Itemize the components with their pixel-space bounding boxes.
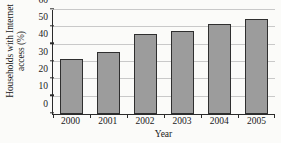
x-axis-tick-label: 2000 [52,117,89,127]
x-axis-tick-label: 2003 [164,117,201,127]
bar [245,19,268,114]
x-axis-tick-labels: 200020012002200320042005 [52,117,275,127]
bar-chart-figure: Households with Internet access (%) 0102… [0,0,281,143]
bar-series [53,10,275,114]
y-axis-tick-label: 0 [43,100,53,110]
bar-slot [53,10,90,114]
bar-slot [238,10,275,114]
x-axis-tick-label: 2004 [201,117,238,127]
x-axis-tick-label: 2002 [126,117,163,127]
bar [97,52,120,114]
y-axis-tick-label: 30 [39,48,54,58]
y-axis-title: Households with Internet access (%) [3,0,29,103]
bar-slot [90,10,127,114]
y-axis-title-line-1: Households with Internet [5,4,16,98]
bar [171,31,194,114]
bar [60,59,83,114]
bar [134,34,157,114]
x-axis-tick-label: 2001 [89,117,126,127]
y-axis-tick-label: 60 [39,0,54,5]
y-axis-title-line-2: access (%) [16,31,27,71]
plot-area: 0102030405060 [52,10,275,115]
y-axis-tick-label: 40 [39,30,54,40]
y-axis-tick-label: 10 [39,82,54,92]
y-axis-tick-label: 50 [39,13,54,23]
bar-slot [127,10,164,114]
y-axis-tick-label: 20 [39,65,54,75]
x-axis-title: Year [52,130,275,140]
bar-slot [164,10,201,114]
x-axis-tick-label: 2005 [238,117,275,127]
bar-slot [201,10,238,114]
bar [208,24,231,114]
